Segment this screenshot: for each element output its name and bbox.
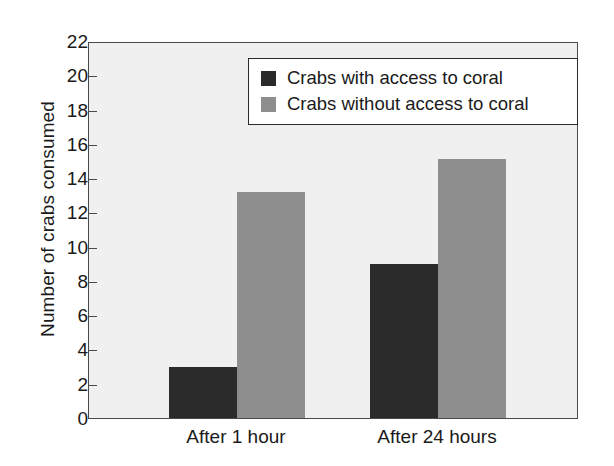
y-tick-mark (88, 282, 97, 283)
bar (169, 367, 237, 418)
y-tick-mark (88, 179, 97, 180)
y-tick-mark (88, 385, 97, 386)
y-tick-label: 22 (18, 32, 88, 51)
x-tick-label: After 24 hours (327, 426, 547, 448)
legend-swatch (261, 97, 276, 112)
y-tick-label: 8 (18, 272, 88, 291)
y-tick-label: 14 (18, 169, 88, 188)
y-axis: 0246810121416182022 (0, 0, 88, 466)
bar (370, 264, 438, 418)
y-tick-mark (88, 145, 97, 146)
bar (438, 159, 506, 418)
legend-entry: Crabs without access to coral (261, 91, 577, 117)
y-tick-label: 2 (18, 375, 88, 394)
y-tick-mark (88, 111, 97, 112)
y-tick-label: 0 (18, 409, 88, 428)
y-tick-mark (88, 76, 97, 77)
y-tick-label: 20 (18, 66, 88, 85)
legend-swatch (261, 71, 276, 86)
x-tick-label: After 1 hour (126, 426, 346, 448)
legend-entry: Crabs with access to coral (261, 65, 577, 91)
y-tick-label: 10 (18, 238, 88, 257)
legend: Crabs with access to coralCrabs without … (248, 58, 578, 125)
legend-label: Crabs without access to coral (287, 94, 529, 114)
y-tick-mark (88, 316, 97, 317)
bar (237, 192, 305, 418)
y-tick-label: 16 (18, 135, 88, 154)
y-tick-mark (88, 213, 97, 214)
y-tick-mark (88, 248, 97, 249)
y-tick-label: 12 (18, 203, 88, 222)
y-tick-label: 4 (18, 340, 88, 359)
y-tick-label: 18 (18, 101, 88, 120)
y-tick-label: 6 (18, 306, 88, 325)
bar-chart: Number of crabs consumed 024681012141618… (0, 0, 614, 466)
y-tick-mark (88, 350, 97, 351)
legend-label: Crabs with access to coral (287, 68, 503, 88)
